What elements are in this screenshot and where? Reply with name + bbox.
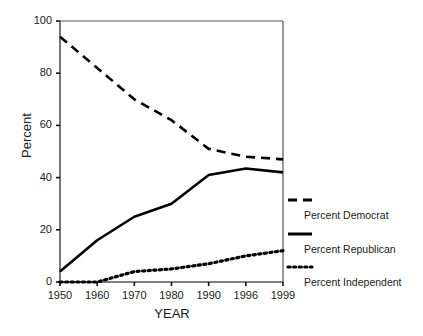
y-tick-label: 0: [12, 276, 52, 287]
series-line-2: [60, 251, 283, 282]
y-tick-label: 40: [12, 172, 52, 183]
legend-label-2[interactable]: Percent Independent: [304, 277, 402, 288]
x-axis-title: YEAR: [60, 306, 284, 321]
x-tick-label: 1999: [258, 290, 308, 301]
y-tick-label: 100: [12, 15, 52, 26]
y-axis-title: Percent: [19, 106, 34, 166]
chart-figure: 020406080100 195019601970198019901996199…: [0, 0, 423, 336]
y-tick-label: 80: [12, 67, 52, 78]
y-tick-label: 20: [12, 224, 52, 235]
legend-label-1[interactable]: Percent Republican: [304, 244, 396, 255]
data-series-layer: [60, 37, 283, 282]
legend-label-0[interactable]: Percent Democrat: [304, 210, 389, 221]
series-line-0: [60, 37, 283, 160]
